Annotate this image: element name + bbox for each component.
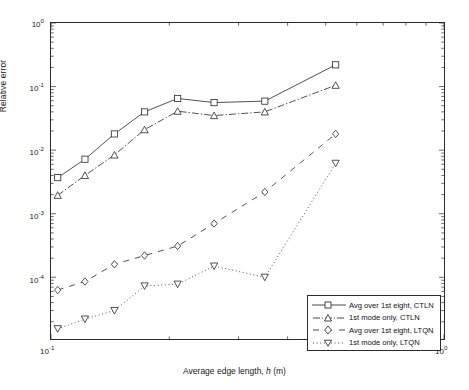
series-line-2 [58,134,336,290]
y-tick-label-3: 10-3 [20,209,44,221]
marker-square [141,109,147,115]
series-line-3 [58,163,336,328]
marker-triangle-down [261,274,268,281]
marker-triangle-down [332,160,339,167]
legend-item-3: 1st mode only, LTQN [311,337,437,350]
x-axis-label-post: (m) [271,366,286,376]
marker-square [111,131,117,137]
x-axis-label: Average edge length, h (m) [0,366,469,376]
marker-triangle-down [210,263,217,270]
y-tick-label-4: 10-4 [20,273,44,285]
y-tick-label-2: 10-2 [20,145,44,157]
legend-item-2: Avg over 1st eight, LTQN [311,324,437,337]
marker-diamond [141,252,147,259]
marker-square [82,156,88,162]
legend-sample-square-solid [311,299,347,311]
legend-sample-triangle-up-dashdot [311,312,347,324]
x-axis-label-pre: Average edge length, [183,366,266,376]
marker-square [55,174,61,180]
marker-triangle-down [54,326,61,333]
legend-label-0: Avg over 1st eight, CTLN [347,301,434,310]
marker-square [262,98,268,104]
legend-sample-diamond-dashed [311,324,347,336]
marker-diamond [82,278,88,285]
y-tick-label-1: 10-1 [20,81,44,93]
marker-diamond [262,188,268,195]
legend-item-0: Avg over 1st eight, CTLN [311,299,437,312]
marker-diamond [175,242,181,249]
y-tick-label-0: 100 [20,17,44,29]
legend-label-1: 1st mode only, CTLN [347,313,420,322]
marker-diamond [211,220,217,227]
marker-square [175,95,181,101]
marker-triangle-down [81,316,88,323]
marker-triangle-down [174,281,181,288]
series-line-0 [58,65,336,178]
y-axis-label: Relative error [0,26,8,146]
marker-triangle-up [141,126,148,133]
marker-triangle-up [111,151,118,158]
x-tick-label-0: 10-1 [40,344,54,356]
legend-label-2: Avg over 1st eight, LTQN [347,326,434,335]
plot-canvas [51,23,444,339]
marker-square [333,62,339,68]
marker-diamond [111,261,117,268]
marker-triangle-up [261,108,268,115]
marker-triangle-down [111,307,118,314]
legend-label-3: 1st mode only, LTQN [347,338,420,347]
marker-triangle-up [54,192,61,199]
marker-diamond [55,286,61,293]
marker-square [211,99,217,105]
figure: Relative error 100 10-1 10-2 10-3 10-4 1… [0,0,469,390]
legend-item-1: 1st mode only, CTLN [311,312,437,325]
marker-triangle-up [174,108,181,115]
series-line-1 [58,85,336,195]
plot-area [50,22,445,340]
marker-triangle-up [332,82,339,89]
marker-diamond [333,130,339,137]
legend-sample-triangle-down-dotted [311,337,347,349]
marker-triangle-up [81,172,88,179]
legend: Avg over 1st eight, CTLN 1st mode only, … [307,295,441,351]
